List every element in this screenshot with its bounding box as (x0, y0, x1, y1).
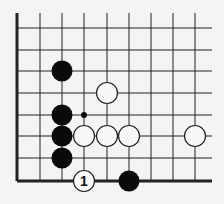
white-stone (97, 126, 118, 147)
white-stone (74, 126, 95, 147)
black-stone (52, 126, 73, 147)
go-board-diagram: 1 (0, 0, 224, 204)
white-stone (185, 126, 206, 147)
marker-dot (81, 112, 87, 118)
black-stone (52, 148, 73, 169)
black-stone (52, 61, 73, 82)
black-stone (52, 105, 73, 126)
white-stone (97, 83, 118, 104)
black-stone (119, 171, 140, 192)
move-number-label: 1 (80, 173, 88, 189)
white-stone (119, 126, 140, 147)
board-svg: 1 (0, 0, 224, 204)
